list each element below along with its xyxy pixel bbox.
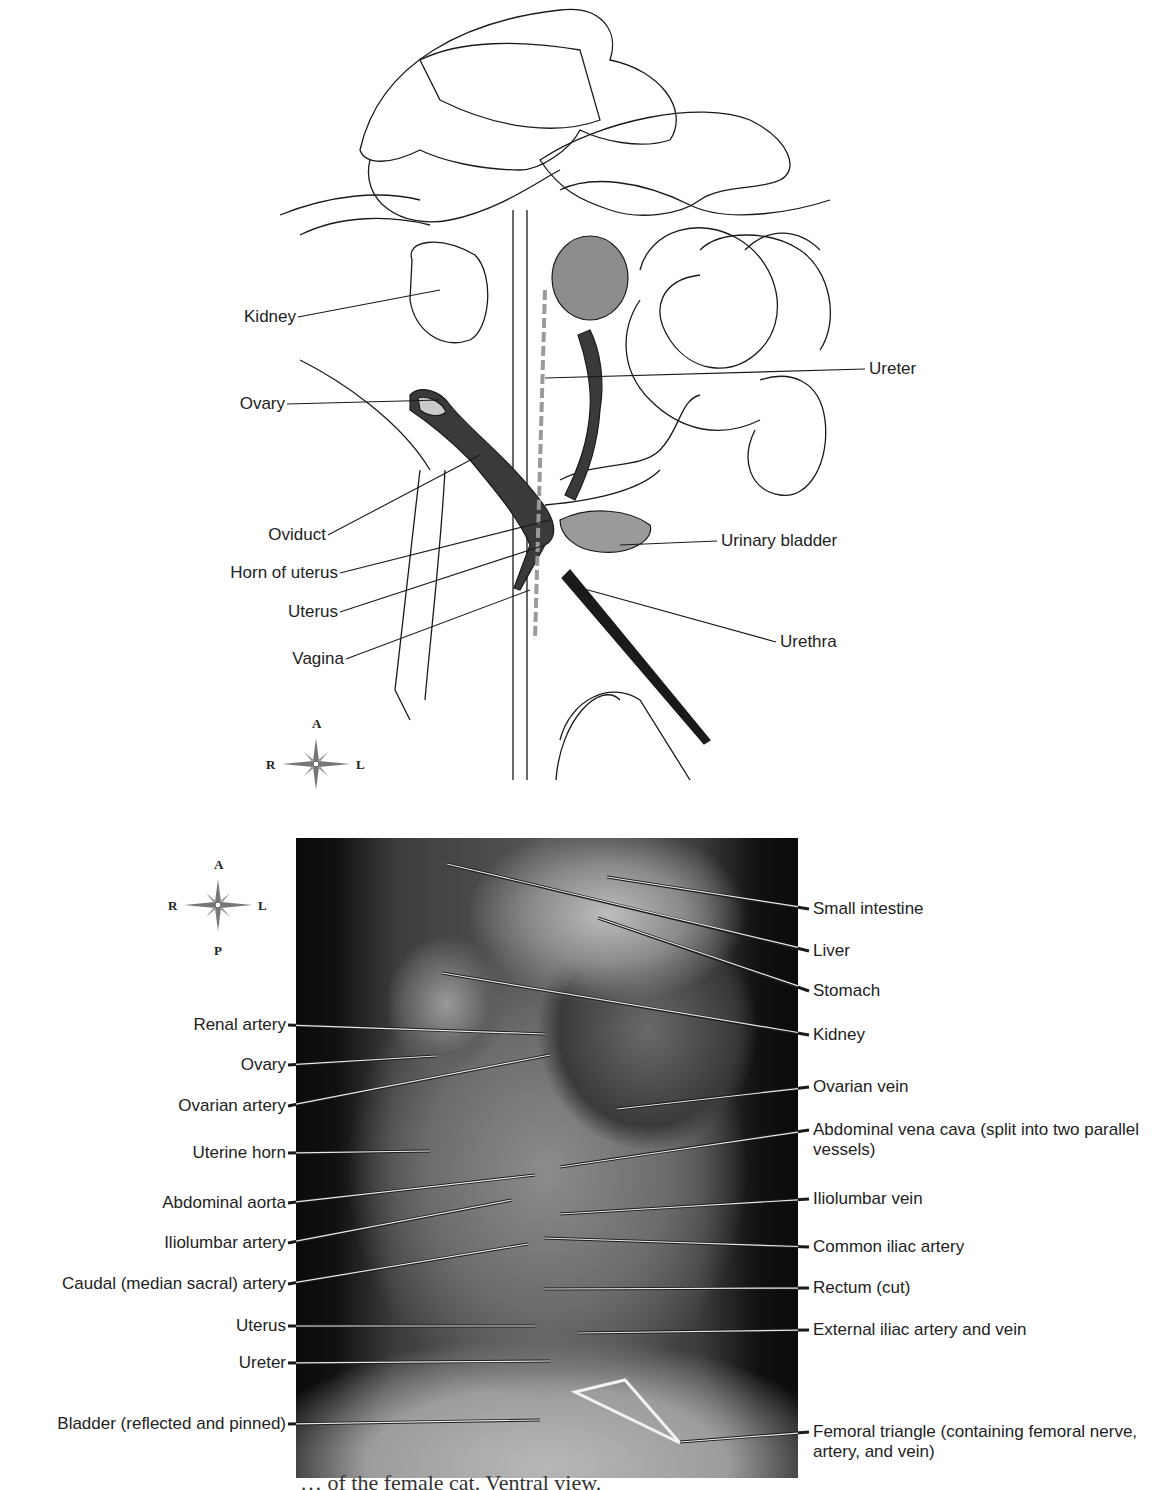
compass-posterior: P: [214, 943, 222, 958]
photo-leader-highlight: [442, 973, 798, 1032]
compass-anterior: A: [214, 857, 224, 872]
photo-leader-highlight: [296, 1244, 528, 1282]
photo-label-ovarian-vein: Ovarian vein: [813, 1077, 908, 1097]
photo-label-iliolumbar-vein: Iliolumbar vein: [813, 1189, 923, 1209]
photo-leader-highlight: [598, 918, 798, 986]
photo-leader-highlight: [296, 1175, 535, 1202]
photo-label-stomach: Stomach: [813, 981, 880, 1001]
photo-label-renal-artery: Renal artery: [193, 1015, 286, 1035]
photo-label-rectum-cut: Rectum (cut): [813, 1278, 910, 1298]
photo-leader-highlight: [296, 1200, 512, 1241]
photo-leader-lines: [288, 864, 809, 1442]
photo-leader-highlight: [544, 1238, 798, 1246]
photo-label-iliolumbar-artery: Iliolumbar artery: [164, 1233, 286, 1253]
compass-rose-bottom: A P R L: [168, 857, 267, 958]
figure-caption: … of the female cat. Ventral view.: [300, 1470, 601, 1490]
femoral-triangle-outline: [575, 1380, 680, 1443]
photo-label-common-iliac-artery: Common iliac artery: [813, 1237, 964, 1257]
photo-label-femoral-triangle-containing-femoral-nerve-artery-and-vein: Femoral triangle (containing femoral ner…: [813, 1422, 1160, 1462]
figure-canvas: A P R L KidneyOvaryOviductHorn of uterus…: [0, 0, 1160, 1490]
photo-label-abdominal-vena-cava-split-into-two-parallel-vessels: Abdominal vena cava (split into two para…: [813, 1120, 1160, 1160]
photo-leader-highlight: [296, 1025, 545, 1034]
photo-label-ureter: Ureter: [239, 1353, 286, 1373]
photo-leader-highlight: [296, 1056, 436, 1064]
photo-leader-highlight: [447, 864, 798, 947]
photo-label-ovary: Ovary: [241, 1055, 286, 1075]
photo-leader-highlight: [607, 877, 798, 907]
photo-overlay: A P R L: [0, 0, 1160, 1490]
photo-label-abdominal-aorta: Abdominal aorta: [162, 1193, 286, 1213]
photo-label-ovarian-artery: Ovarian artery: [178, 1096, 286, 1116]
photo-label-kidney: Kidney: [813, 1025, 865, 1045]
photo-label-bladder-reflected-and-pinned: Bladder (reflected and pinned): [57, 1414, 286, 1434]
photo-label-caudal-median-sacral-artery: Caudal (median sacral) artery: [62, 1274, 286, 1294]
photo-leader-highlight: [617, 1089, 798, 1109]
photo-leader-highlight: [560, 1132, 798, 1167]
compass-left: L: [258, 898, 267, 913]
photo-label-small-intestine: Small intestine: [813, 899, 924, 919]
photo-label-liver: Liver: [813, 941, 850, 961]
compass-right: R: [168, 898, 178, 913]
photo-label-external-iliac-artery-and-vein: External iliac artery and vein: [813, 1320, 1027, 1340]
photo-label-uterus: Uterus: [236, 1316, 286, 1336]
photo-label-uterine-horn: Uterine horn: [192, 1143, 286, 1163]
photo-leader-highlight: [680, 1433, 798, 1442]
photo-leader-highlight: [560, 1200, 798, 1214]
